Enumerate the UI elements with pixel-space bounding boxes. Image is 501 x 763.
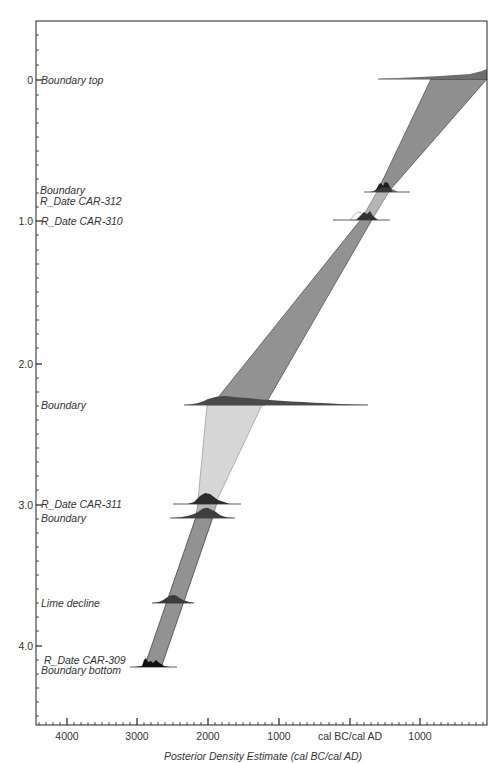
y-tick-0: 0: [27, 74, 33, 86]
dist-boundary-top: [378, 69, 487, 79]
band-hiatus: [198, 405, 262, 500]
label-lime-decline: Lime decline: [41, 597, 100, 609]
label-boundary-2: Boundary: [41, 399, 87, 411]
label-car312: R_Date CAR-312: [40, 195, 122, 207]
dist-car312: [364, 182, 410, 192]
series-labels: Boundary top Boundary R_Date CAR-312 R_D…: [40, 74, 126, 676]
dist-car310: [333, 211, 390, 220]
dist-boundary-2: [184, 396, 368, 405]
x-tick-zero: cal BC/cal AD: [318, 730, 383, 742]
x-tick-3000: 3000: [125, 730, 149, 742]
label-car311: R_Date CAR-311: [41, 498, 122, 510]
y-tick-2: 2.0: [18, 358, 33, 370]
x-tick-1000-bc: 1000: [267, 730, 291, 742]
x-tick-2000: 2000: [196, 730, 220, 742]
dist-lime-decline: [152, 595, 194, 603]
x-axis-title: Posterior Density Estimate (cal BC/cal A…: [164, 750, 362, 762]
y-tick-1: 1.0: [18, 215, 33, 227]
x-axis: [39, 718, 483, 725]
y-axis: [36, 35, 42, 716]
label-boundary-3: Boundary: [41, 512, 87, 524]
dist-car311: [173, 493, 241, 504]
band-lower: [145, 517, 213, 665]
y-tick-3: 3.0: [18, 499, 33, 511]
x-tick-1000-ad: 1000: [408, 730, 432, 742]
dist-boundary-3: [170, 508, 235, 518]
age-depth-envelope: [145, 79, 487, 665]
label-boundary-top: Boundary top: [41, 74, 104, 86]
age-depth-chart: 0 1.0 2.0 3.0 4.0 4000 3000 2000 1000 ca…: [0, 0, 501, 763]
y-tick-4: 4.0: [18, 640, 33, 652]
band-top: [378, 79, 487, 190]
x-tick-4000: 4000: [55, 730, 79, 742]
label-car310: R_Date CAR-310: [41, 215, 123, 227]
band-310-boundary: [212, 218, 373, 405]
label-boundary-bottom: Boundary bottom: [41, 664, 121, 676]
